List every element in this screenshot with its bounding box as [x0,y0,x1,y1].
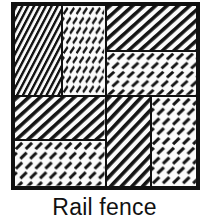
quadrant-top-right [106,5,198,96]
figure-caption: Rail fence [0,194,209,220]
diagonal-hatch-icon [15,6,61,95]
patch-bottom-left-dashed [13,139,107,188]
dashed-texture-icon [152,97,196,186]
dashed-texture-icon [63,6,104,95]
rail-fence-figure: Rail fence [0,0,209,220]
dashed-texture-icon [107,52,197,95]
quilt-block-diagram [11,2,200,190]
quadrant-bottom-left [14,96,106,187]
diagonal-hatch-icon [15,97,105,139]
patch-bottom-right-dashed [150,95,198,188]
patch-top-left-hatch [13,4,63,97]
dashed-texture-icon [15,141,105,186]
patch-top-right-dashed [105,50,199,97]
patch-top-right-hatch [105,4,199,52]
patch-bottom-left-hatch [13,95,107,141]
diagonal-hatch-icon [107,97,151,186]
patch-bottom-right-hatch [105,95,153,188]
diagonal-hatch-icon [107,6,197,50]
patch-top-left-dashed [61,4,106,97]
quadrant-bottom-right [106,96,198,187]
quadrant-top-left [14,5,106,96]
